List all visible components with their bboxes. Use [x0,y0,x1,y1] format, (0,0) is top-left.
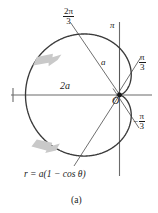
figure-caption: (a) [71,196,82,206]
angle-label-2pi-over-3-denominator: 3 [63,17,74,26]
angle-label-pi: π [110,21,115,30]
origin-label: O [112,96,119,106]
angle-label-2pi-over-3: 2π 3 [63,7,74,26]
cardioid-figure: 2π 3 π a π 3 − π 3 2a O r = a(1 − cos θ)… [0,0,158,213]
angle-label-pi-over-3: π 3 [139,53,146,72]
segment-label-a: a [101,58,106,67]
equation-label: r = a(1 − cos θ) [24,170,86,180]
ray-2pi-over-3 [71,23,121,97]
direction-arrow-upper [33,51,61,70]
polar-plot-svg [0,0,158,213]
angle-label-pi-over-3-denominator: 3 [139,63,146,72]
segment-label-2a: 2a [60,81,70,91]
angle-label-negative-pi-over-3: − π 3 [133,112,145,131]
angle-label-negative-pi-over-3-denominator: 3 [139,122,146,131]
direction-arrow-lower [31,137,61,154]
